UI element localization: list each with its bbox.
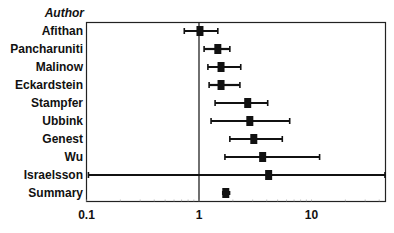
study-row — [215, 98, 268, 108]
point-estimate-marker — [218, 80, 225, 90]
study-row — [88, 170, 385, 180]
point-estimate-marker — [265, 170, 272, 180]
study-row — [230, 134, 282, 144]
point-estimate-marker — [250, 134, 257, 144]
point-estimate-marker — [196, 26, 203, 36]
study-row — [211, 116, 290, 126]
point-estimate-marker — [259, 152, 266, 162]
summary-estimate-marker — [222, 188, 229, 198]
summary-marker — [222, 188, 230, 198]
forest-plot — [0, 0, 394, 233]
study-rows — [88, 26, 385, 180]
study-row — [225, 152, 320, 162]
study-row — [208, 62, 241, 72]
point-estimate-marker — [214, 44, 221, 54]
study-row — [209, 80, 240, 90]
point-estimate-marker — [246, 116, 253, 126]
point-estimate-marker — [244, 98, 251, 108]
study-row — [204, 44, 230, 54]
study-row — [184, 26, 218, 36]
point-estimate-marker — [218, 62, 225, 72]
